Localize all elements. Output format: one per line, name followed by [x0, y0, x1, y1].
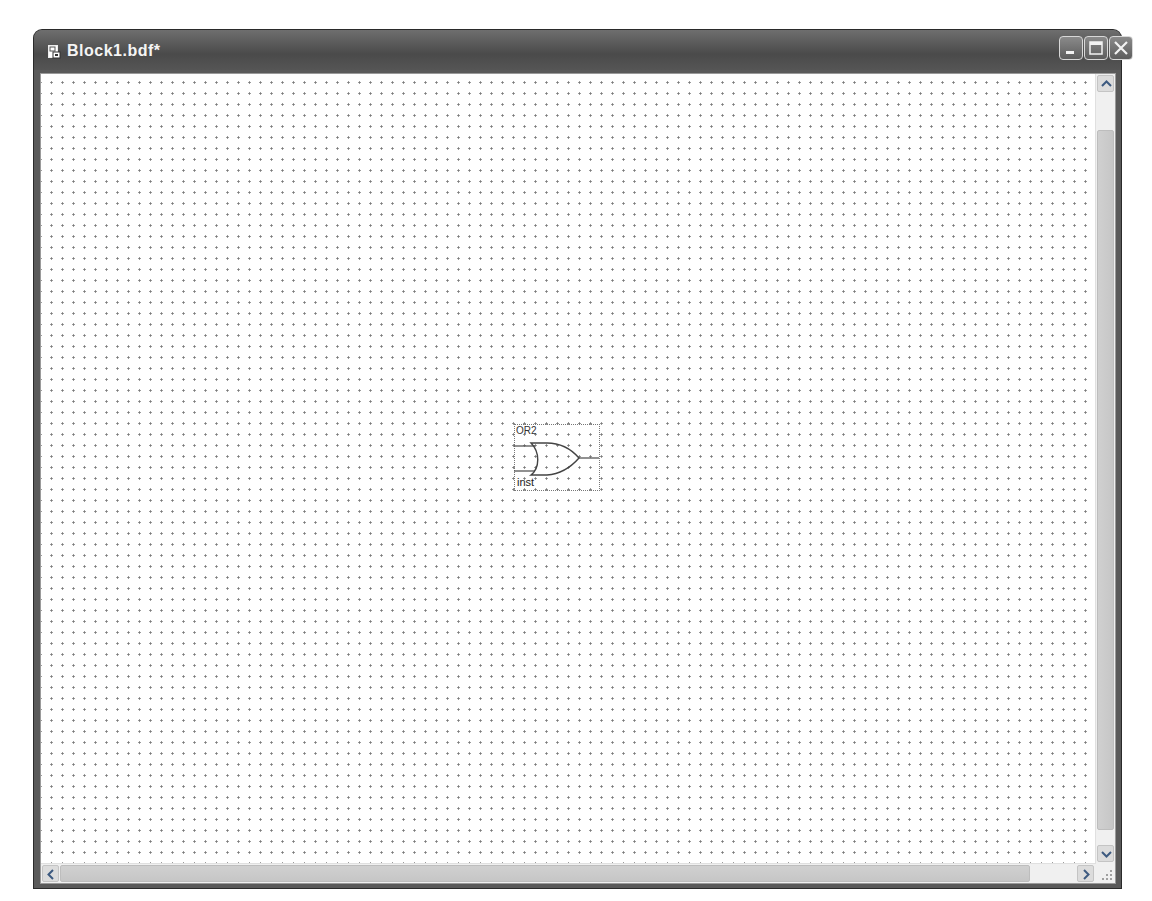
scroll-right-button[interactable] — [1077, 865, 1094, 882]
close-button[interactable] — [1109, 36, 1133, 60]
horizontal-scroll-thumb[interactable] — [60, 865, 1030, 882]
vertical-scrollbar[interactable] — [1095, 74, 1115, 864]
schematic-canvas[interactable]: OR2 inst — [41, 74, 1096, 864]
resize-grip[interactable] — [1096, 864, 1115, 883]
chevron-up-icon — [1098, 76, 1115, 93]
maximize-button[interactable] — [1084, 36, 1108, 60]
minimize-icon — [1060, 37, 1082, 59]
chevron-down-icon — [1098, 846, 1115, 863]
chevron-left-icon — [43, 866, 60, 883]
document-window: Block1.bdf* OR2 — [34, 30, 1121, 888]
vertical-scroll-thumb[interactable] — [1097, 130, 1114, 830]
maximize-icon — [1085, 37, 1107, 59]
window-title: Block1.bdf* — [67, 42, 161, 60]
diagram-client-area: OR2 inst — [40, 73, 1116, 884]
scroll-left-button[interactable] — [42, 865, 59, 882]
scroll-up-button[interactable] — [1097, 75, 1114, 92]
instance-name-label: inst — [517, 476, 534, 488]
chevron-right-icon — [1078, 866, 1095, 883]
or2-gate-symbol[interactable]: OR2 inst — [514, 424, 600, 491]
minimize-button[interactable] — [1059, 36, 1083, 60]
resize-grip-icon — [1096, 864, 1115, 883]
close-icon — [1110, 37, 1132, 59]
title-bar[interactable]: Block1.bdf* — [34, 30, 1121, 70]
horizontal-scrollbar[interactable] — [41, 863, 1096, 883]
block-diagram-file-icon — [48, 45, 61, 59]
scroll-down-button[interactable] — [1097, 845, 1114, 862]
